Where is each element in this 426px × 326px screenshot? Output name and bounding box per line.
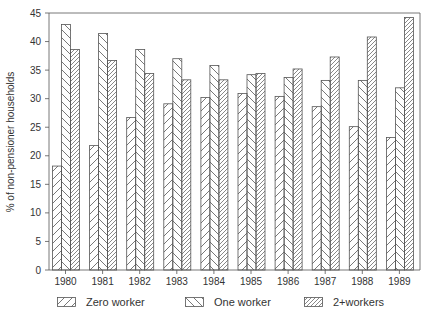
bar: [136, 50, 145, 270]
y-tick-label: 15: [30, 179, 42, 190]
y-axis-title: % of non-pensioner households: [5, 72, 16, 213]
bar: [90, 145, 99, 270]
legend-label: Zero worker: [86, 296, 145, 308]
y-tick-label: 5: [35, 236, 41, 247]
y-tick-label: 10: [30, 207, 42, 218]
legend-item-zero-worker: Zero worker: [57, 296, 145, 308]
x-tick-label: 1981: [91, 276, 114, 287]
bar: [127, 118, 136, 270]
bar: [182, 80, 191, 270]
legend-label: One worker: [214, 296, 271, 308]
bar: [321, 80, 330, 270]
legend: Zero worker One worker 2+workers: [0, 296, 426, 320]
x-tick-label: 1983: [166, 276, 189, 287]
x-axis: 1980198119821983198419851986198719881989: [54, 270, 411, 287]
bar: [293, 69, 302, 270]
legend-item-one-worker: One worker: [185, 296, 271, 308]
bar: [256, 74, 265, 270]
bars: [53, 18, 414, 270]
bar: [404, 18, 413, 270]
x-tick-label: 1989: [388, 276, 411, 287]
x-tick-label: 1984: [203, 276, 226, 287]
y-tick-label: 20: [30, 150, 42, 161]
bar: [71, 50, 80, 270]
legend-item-two-plus-workers: 2+workers: [304, 296, 384, 308]
legend-label: 2+workers: [333, 296, 384, 308]
bar: [349, 127, 358, 270]
y-tick-label: 45: [30, 8, 42, 19]
y-tick-label: 35: [30, 65, 42, 76]
bar: [53, 166, 62, 270]
bar: [201, 98, 210, 270]
bar: [275, 96, 284, 270]
y-tick-label: 25: [30, 122, 42, 133]
y-tick-label: 30: [30, 93, 42, 104]
bar: [395, 88, 404, 270]
bar: [62, 24, 71, 270]
bar: [238, 94, 247, 270]
x-tick-label: 1980: [54, 276, 77, 287]
x-tick-label: 1988: [351, 276, 374, 287]
bar: [219, 80, 228, 270]
bar: [99, 34, 108, 270]
hatch-dense-swatch-icon: [304, 297, 323, 307]
bar: [145, 74, 154, 270]
x-tick-label: 1982: [129, 276, 152, 287]
y-axis: 051015202530354045: [30, 8, 49, 276]
bar: [312, 107, 321, 270]
bar: [247, 75, 256, 270]
bar: [164, 104, 173, 270]
bar-chart: 051015202530354045 198019811982198319841…: [0, 0, 426, 326]
y-tick-label: 0: [35, 265, 41, 276]
hatch-backward-swatch-icon: [185, 297, 204, 307]
x-tick-label: 1987: [314, 276, 337, 287]
x-tick-label: 1986: [277, 276, 300, 287]
hatch-forward-swatch-icon: [57, 297, 76, 307]
bar: [173, 59, 182, 270]
bar: [367, 37, 376, 270]
bar: [358, 80, 367, 270]
bar: [108, 60, 117, 270]
x-tick-label: 1985: [240, 276, 263, 287]
bar: [330, 57, 339, 270]
bar: [210, 66, 219, 270]
bar: [386, 138, 395, 270]
bar: [284, 78, 293, 270]
y-tick-label: 40: [30, 36, 42, 47]
